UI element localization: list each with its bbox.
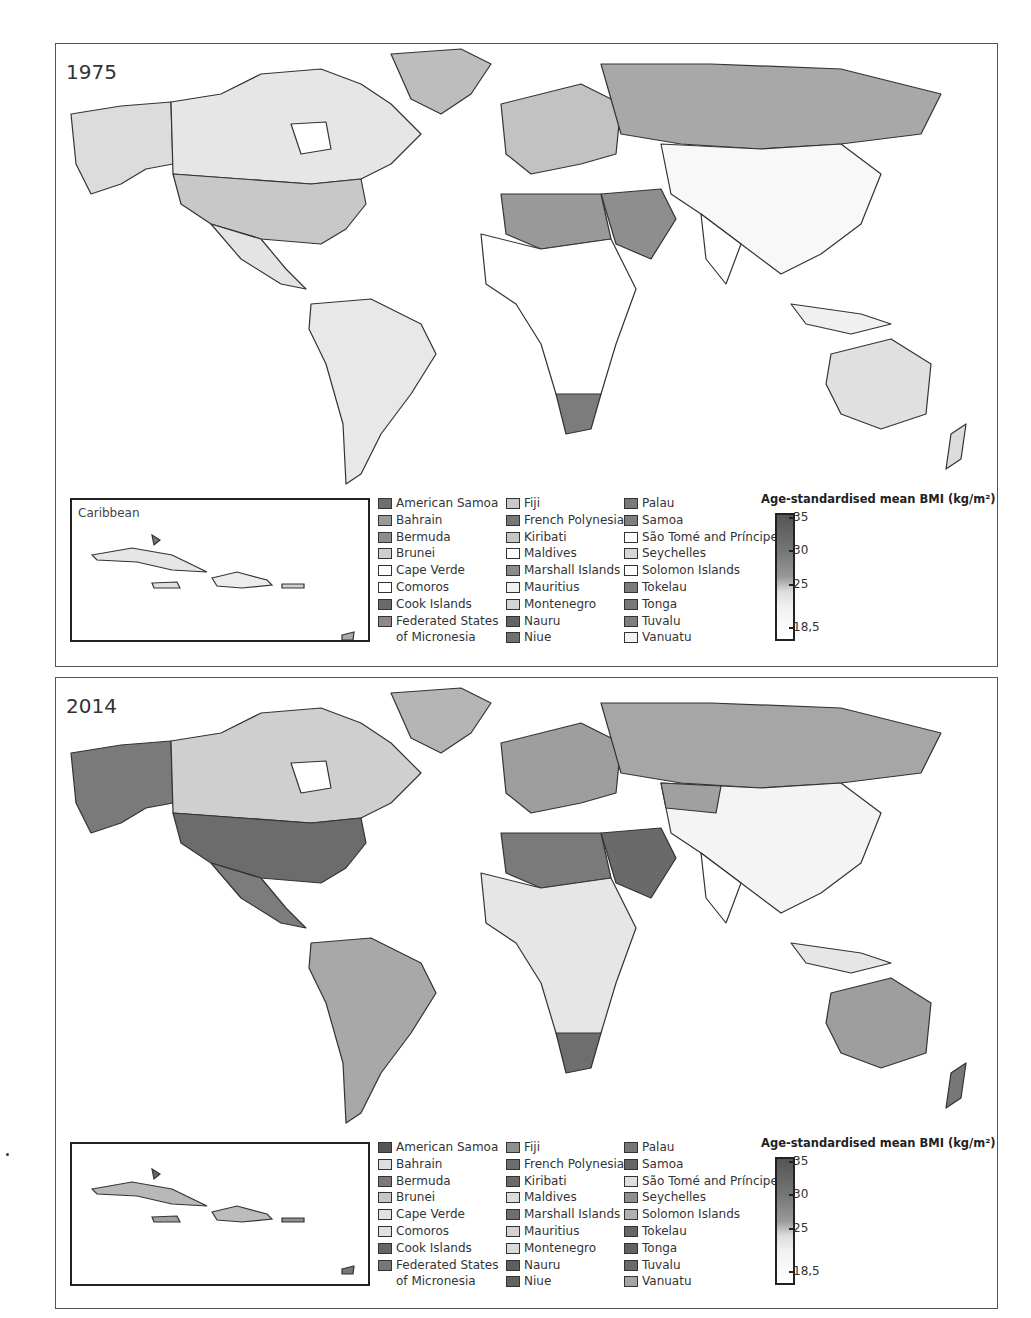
legend-item: Fiji xyxy=(506,495,624,512)
australia xyxy=(826,339,931,429)
legend-item: Bermuda xyxy=(378,1173,506,1190)
hispaniola xyxy=(212,1206,272,1222)
tick-30: 30 xyxy=(793,543,808,557)
legend-item: American Samoa xyxy=(378,495,506,512)
legend-label: Brunei xyxy=(396,545,435,562)
legend-item: Kiribati xyxy=(506,1173,624,1190)
legend-item: French Polynesia xyxy=(506,1156,624,1173)
legend-label: Bahrain xyxy=(396,1156,442,1173)
caribbean-inset: Caribbean xyxy=(70,498,370,642)
scale-title: Age-standardised mean BMI (kg/m²) xyxy=(761,492,996,506)
legend-item: Mauritius xyxy=(506,1223,624,1240)
south-america xyxy=(309,938,436,1123)
legend-item: Samoa xyxy=(624,512,779,529)
alaska xyxy=(71,741,173,833)
legend-label: Bermuda xyxy=(396,529,451,546)
legend-item: French Polynesia xyxy=(506,512,624,529)
europe xyxy=(501,723,621,813)
color-swatch xyxy=(378,1176,392,1187)
color-swatch xyxy=(378,616,392,627)
legend-item: Cook Islands xyxy=(378,1240,506,1257)
legend-item: Nauru xyxy=(506,1257,624,1274)
legend-label: Tokelau xyxy=(642,1223,687,1240)
legend-label: Maldives xyxy=(524,545,577,562)
caribbean-map xyxy=(72,1144,368,1284)
color-swatch xyxy=(624,1209,638,1220)
greenland xyxy=(391,49,491,114)
country-legend: American SamoaBahrainBermudaBruneiCape V… xyxy=(378,495,779,646)
legend-label: Cape Verde xyxy=(396,1206,465,1223)
legend-item: Tonga xyxy=(624,1240,779,1257)
legend-label: Brunei xyxy=(396,1189,435,1206)
color-swatch xyxy=(506,1243,520,1254)
legend-label: Niue xyxy=(524,629,551,646)
color-swatch xyxy=(378,1142,392,1153)
color-swatch xyxy=(506,1159,520,1170)
legend-label: Cook Islands xyxy=(396,1240,472,1257)
legend-label: of Micronesia xyxy=(396,629,476,646)
north-africa xyxy=(501,833,611,888)
tick-25: 25 xyxy=(793,1221,808,1235)
legend-item: Brunei xyxy=(378,1189,506,1206)
map-panel-1975: 1975 Caribbean American SamoaBahrainBerm… xyxy=(55,43,998,667)
color-swatch xyxy=(624,1243,638,1254)
color-swatch xyxy=(624,632,638,643)
legend-item: Bahrain xyxy=(378,1156,506,1173)
legend-label: Tuvalu xyxy=(642,1257,681,1274)
legend-label: Marshall Islands xyxy=(524,562,620,579)
legend-label: Cape Verde xyxy=(396,562,465,579)
tick-30: 30 xyxy=(793,1187,808,1201)
legend-item: Comoros xyxy=(378,1223,506,1240)
legend-label: Vanuatu xyxy=(642,629,692,646)
legend-label: Tonga xyxy=(642,596,677,613)
legend-item: Cape Verde xyxy=(378,1206,506,1223)
legend-item: Tuvalu xyxy=(624,1257,779,1274)
color-swatch xyxy=(624,548,638,559)
country-legend: American SamoaBahrainBermudaBruneiCape V… xyxy=(378,1139,779,1290)
color-swatch xyxy=(378,1159,392,1170)
legend-item: Marshall Islands xyxy=(506,562,624,579)
legend-item: Bahrain xyxy=(378,512,506,529)
tick-18-5: 18,5 xyxy=(793,1264,820,1278)
legend-item: Fiji xyxy=(506,1139,624,1156)
legend-label: Nauru xyxy=(524,1257,560,1274)
legend-label: Federated States xyxy=(396,613,498,630)
legend-label: Marshall Islands xyxy=(524,1206,620,1223)
hispaniola xyxy=(212,572,272,588)
legend-item: Kiribati xyxy=(506,529,624,546)
legend-item: Maldives xyxy=(506,1189,624,1206)
legend-item: American Samoa xyxy=(378,1139,506,1156)
legend-item: Niue xyxy=(506,1273,624,1290)
legend-label: Samoa xyxy=(642,1156,683,1173)
legend-label: Nauru xyxy=(524,613,560,630)
tick-25: 25 xyxy=(793,577,808,591)
color-swatch xyxy=(624,599,638,610)
legend-item: Vanuatu xyxy=(624,1273,779,1290)
map-panel-2014: 2014 American SamoaBahrainBermudaBruneiC… xyxy=(55,677,998,1309)
asia xyxy=(661,144,881,274)
color-swatch xyxy=(506,1176,520,1187)
color-swatch xyxy=(506,582,520,593)
scale-title: Age-standardised mean BMI (kg/m²) xyxy=(761,1136,996,1150)
color-swatch xyxy=(624,1176,638,1187)
legend-item: Comoros xyxy=(378,579,506,596)
legend-label: Montenegro xyxy=(524,1240,596,1257)
bahamas xyxy=(152,1169,160,1179)
gradient-bar xyxy=(775,1157,795,1285)
kazakhstan xyxy=(661,783,721,813)
color-swatch xyxy=(506,1192,520,1203)
color-swatch xyxy=(624,1192,638,1203)
color-swatch xyxy=(624,565,638,576)
greenland xyxy=(391,688,491,753)
color-swatch xyxy=(506,1142,520,1153)
trinidad xyxy=(342,1266,354,1274)
new-zealand xyxy=(946,1063,966,1108)
color-swatch xyxy=(378,1192,392,1203)
legend-label: Montenegro xyxy=(524,596,596,613)
legend-label: American Samoa xyxy=(396,495,498,512)
legend-label: Comoros xyxy=(396,579,449,596)
color-swatch xyxy=(378,548,392,559)
russia xyxy=(601,64,941,149)
legend-column: FijiFrench PolynesiaKiribatiMaldivesMars… xyxy=(506,1139,624,1290)
color-swatch xyxy=(378,1243,392,1254)
